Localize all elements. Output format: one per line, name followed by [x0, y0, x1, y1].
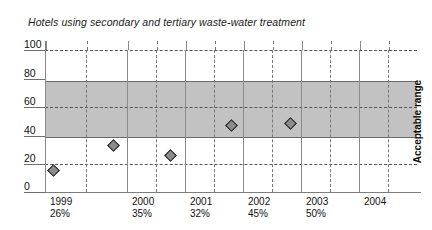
tick-top — [46, 41, 47, 50]
x-percent-label: 50% — [306, 208, 328, 220]
y-tick-40: 40 — [24, 125, 46, 137]
year-boundary-2000-start — [127, 50, 128, 192]
y-tick-20: 20 — [24, 153, 46, 165]
x-group-2001: 2001 32% — [190, 196, 212, 220]
data-point-1999[interactable] — [47, 164, 60, 177]
acceptable-range-label: Acceptable range — [410, 50, 426, 192]
x-year-label: 2003 — [306, 196, 328, 208]
x-year-label: 2002 — [248, 196, 270, 208]
tick-top — [331, 41, 332, 50]
year-boundary-2001-start — [185, 50, 186, 192]
chart-title: Hotels using secondary and tertiary wast… — [28, 16, 305, 28]
tick-top — [128, 41, 129, 50]
y-tick-rule — [24, 164, 46, 165]
midline-2003 — [330, 50, 331, 192]
gridline-20 — [45, 164, 417, 165]
midline-2004 — [388, 50, 389, 192]
y-tick-100: 100 — [24, 39, 46, 51]
x-group-2002: 2002 45% — [248, 196, 270, 220]
y-tick-label: 100 — [24, 39, 46, 50]
y-tick-label: 60 — [24, 96, 46, 107]
tick-top — [389, 41, 390, 50]
x-percent-label: 32% — [190, 208, 212, 220]
tick-top — [302, 41, 303, 50]
chart-container: Hotels using secondary and tertiary wast… — [0, 0, 432, 230]
y-tick-0: 0 — [24, 181, 46, 193]
year-boundary-2002-start — [243, 50, 244, 192]
x-year-label: 2004 — [364, 196, 386, 208]
x-percent-label: 26% — [50, 208, 72, 220]
x-year-label: 1999 — [50, 196, 72, 208]
data-point-2000[interactable] — [107, 139, 120, 152]
tick-top — [215, 41, 216, 50]
year-boundary-1999-start — [45, 50, 46, 192]
y-tick-rule — [24, 107, 46, 108]
y-tick-rule — [24, 50, 46, 51]
y-tick-label: 20 — [24, 153, 46, 164]
x-group-1999: 1999 26% — [50, 196, 72, 220]
x-percent-label: 45% — [248, 208, 270, 220]
x-group-2003: 2003 50% — [306, 196, 328, 220]
y-tick-label: 0 — [24, 181, 46, 192]
y-tick-rule — [24, 136, 46, 137]
tick-top — [273, 41, 274, 50]
tick-top — [244, 41, 245, 50]
y-tick-80: 80 — [24, 68, 46, 80]
y-tick-rule — [24, 79, 46, 80]
tick-top — [360, 41, 361, 50]
data-point-2001[interactable] — [164, 149, 177, 162]
y-tick-60: 60 — [24, 96, 46, 108]
tick-top — [87, 41, 88, 50]
gridline-60 — [45, 107, 417, 108]
gridline-100 — [45, 50, 417, 51]
x-group-2004: 2004 — [364, 196, 386, 208]
y-tick-rule — [24, 192, 46, 193]
x-percent-label: 35% — [132, 208, 154, 220]
x-group-2000: 2000 35% — [132, 196, 154, 220]
year-boundary-2004-start — [359, 50, 360, 192]
midline-2000 — [156, 50, 157, 192]
acceptable-range-text: Acceptable range — [413, 79, 424, 162]
x-axis-line — [24, 192, 421, 193]
tick-top — [186, 41, 187, 50]
year-boundary-2003-start — [301, 50, 302, 192]
midline-2002 — [272, 50, 273, 192]
midline-1999 — [86, 50, 87, 192]
midline-2001 — [214, 50, 215, 192]
plot-area — [45, 50, 417, 192]
x-year-label: 2001 — [190, 196, 212, 208]
x-year-label: 2000 — [132, 196, 154, 208]
y-tick-label: 80 — [24, 68, 46, 79]
y-tick-label: 40 — [24, 125, 46, 136]
tick-top — [157, 41, 158, 50]
